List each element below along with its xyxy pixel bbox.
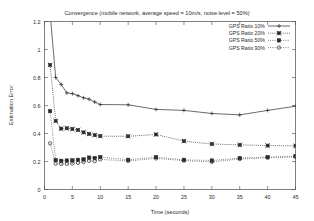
x-tick-label: 30 [209,194,215,200]
x-tick-label: 20 [153,194,159,200]
data-point-marker [237,143,242,148]
x-tick-label: 10 [97,194,103,200]
y-axis-label: Estimation Error [8,85,14,125]
data-point-marker [126,134,131,139]
y-tick-label: 0.8 [33,75,41,81]
x-tick-label: 5 [71,194,74,200]
x-tick-label: 0 [43,194,46,200]
data-point-marker [65,159,68,162]
x-axis-label: Time (seconds) [151,209,189,215]
convergence-line-chart: Convergence (mobile network, average spe… [0,0,314,221]
data-point-marker [76,128,81,133]
data-point-marker [48,109,51,112]
data-point-marker [210,142,215,147]
data-point-marker [54,158,57,161]
chart-title: Convergence (mobile network, average spe… [64,10,249,16]
data-point-marker [48,63,53,68]
legend-label-3: GPS Ratio 50% [229,37,266,43]
data-point-marker [182,139,187,144]
legend-label-1: GPS Ratio 10% [229,23,266,29]
y-tick-label: 0 [38,187,41,193]
y-tick-label: 1 [38,47,41,53]
data-point-marker [92,133,97,138]
x-tick-label: 25 [181,194,187,200]
y-tick-label: 1.2 [33,19,41,25]
chart-container: Convergence (mobile network, average spe… [0,0,314,221]
y-tick-label: 0.2 [33,159,41,165]
data-point-marker [154,132,159,137]
data-point-marker [277,31,282,36]
data-point-marker [98,134,103,139]
legend-label-2: GPS Ratio 20% [229,30,266,36]
y-tick-label: 0.4 [33,131,41,137]
data-point-marker [70,127,75,132]
x-tick-label: 35 [237,194,243,200]
legend-label-4: GPS Ratio 90% [229,45,266,51]
x-tick-label: 15 [125,194,131,200]
data-point-marker [59,126,64,131]
data-point-marker [87,132,92,137]
data-point-marker [53,119,58,124]
y-tick-label: 0.6 [33,103,41,109]
data-point-marker [81,130,86,135]
data-point-marker [265,143,270,148]
data-point-marker [277,39,280,42]
x-tick-label: 45 [293,194,299,200]
data-point-marker [65,126,70,131]
x-tick-label: 40 [265,194,271,200]
